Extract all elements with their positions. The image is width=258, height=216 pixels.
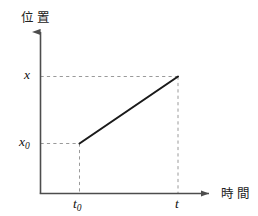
position-time-graph-figure: 位置 時間 x x0 t0 t — [0, 0, 258, 216]
y-tick-label-x0-subscript: 0 — [25, 141, 30, 151]
guide-lines — [41, 77, 179, 194]
y-tick-label-x0: x0 — [19, 135, 30, 152]
x-tick-label-t0-subscript: 0 — [77, 203, 82, 213]
x-axis-label: 時間 — [221, 188, 252, 201]
x-tick-label-t0: t0 — [73, 197, 82, 214]
graph-canvas — [0, 0, 258, 216]
position-line-segment — [80, 77, 179, 144]
x-tick-label-t: t — [175, 197, 179, 211]
y-tick-label-x: x — [24, 68, 30, 82]
y-axis-label: 位置 — [21, 12, 52, 25]
data-series-position-vs-time — [80, 77, 179, 144]
